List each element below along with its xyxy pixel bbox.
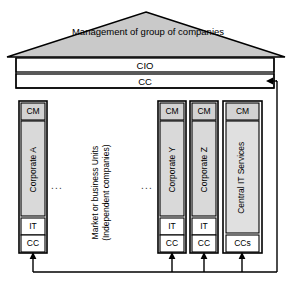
column-corporate-z — [190, 101, 218, 253]
column-central-it-services-ccs-box — [226, 235, 259, 252]
column-corporate-a-cc-box — [21, 235, 45, 252]
column-corporate-y-body — [160, 121, 184, 216]
column-corporate-a — [19, 101, 47, 253]
roof-triangle — [7, 12, 285, 57]
column-corporate-a-body — [21, 121, 45, 216]
column-corporate-y-cc-box — [160, 235, 184, 252]
column-corporate-z-cm-box — [192, 103, 216, 120]
column-corporate-y-it-box — [160, 218, 184, 235]
column-corporate-y-cm-box — [160, 103, 184, 120]
column-corporate-y — [158, 101, 186, 253]
column-corporate-a-it-box — [21, 218, 45, 235]
column-corporate-z-body — [192, 121, 216, 216]
organization-structure-diagram — [0, 0, 296, 284]
diagram-canvas: Management of group of companies CIO CC … — [0, 0, 296, 284]
column-corporate-z-cc-box — [192, 235, 216, 252]
cio-bar — [16, 58, 274, 72]
cc-bar — [16, 74, 274, 88]
column-central-it-services-cm-box — [226, 103, 259, 120]
column-corporate-a-cm-box — [21, 103, 45, 120]
column-central-it-services-body — [226, 121, 259, 233]
column-central-it-services — [223, 101, 262, 253]
column-corporate-z-it-box — [192, 218, 216, 235]
